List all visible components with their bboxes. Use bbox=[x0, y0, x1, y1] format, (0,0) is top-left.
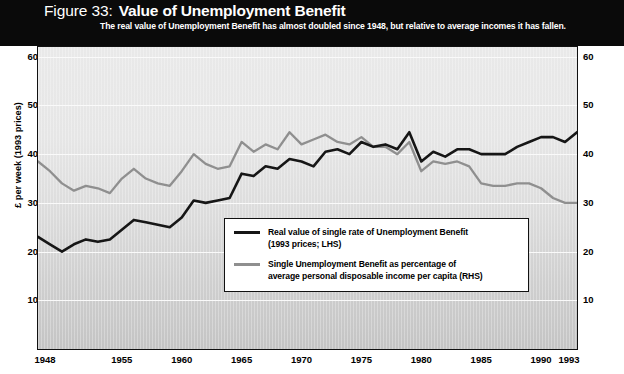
series-line-percentage bbox=[38, 132, 577, 203]
x-tick-1985: 1985 bbox=[471, 355, 492, 365]
y-tick-right-30: 30 bbox=[583, 198, 594, 208]
legend-label-real-value-line2: (1993 prices; LHS) bbox=[268, 239, 341, 249]
x-tick-1990: 1990 bbox=[530, 355, 551, 365]
y-tick-right-60: 60 bbox=[583, 52, 594, 62]
x-tick-1960: 1960 bbox=[171, 355, 192, 365]
y-tick-right-10: 10 bbox=[583, 295, 594, 305]
x-tick-1955: 1955 bbox=[111, 355, 132, 365]
legend-swatch-light bbox=[234, 263, 260, 266]
x-tick-1975: 1975 bbox=[351, 355, 372, 365]
x-tick-1948: 1948 bbox=[34, 355, 55, 365]
legend-swatch-dark bbox=[234, 231, 260, 234]
figure-subtitle: The real value of Unemployment Benefit h… bbox=[100, 21, 570, 32]
figure-container: Figure 33: Value of Unemployment Benefit… bbox=[0, 0, 624, 374]
legend-item-percentage: Single Unemployment Benefit as percentag… bbox=[234, 259, 519, 282]
y-tick-right-50: 50 bbox=[583, 100, 594, 110]
banner-right-fill bbox=[578, 0, 624, 46]
legend-label-percentage-line2: average personal disposable income per c… bbox=[268, 271, 483, 281]
legend-label-percentage: Single Unemployment Benefit as percentag… bbox=[268, 259, 483, 282]
legend: Real value of single rate of Unemploymen… bbox=[224, 218, 529, 292]
legend-item-real-value: Real value of single rate of Unemploymen… bbox=[234, 227, 519, 250]
y-tick-right-40: 40 bbox=[583, 149, 594, 159]
figure-title: Value of Unemployment Benefit bbox=[119, 2, 346, 20]
figure-number: Figure 33: bbox=[44, 2, 113, 20]
legend-label-real-value: Real value of single rate of Unemploymen… bbox=[268, 227, 468, 250]
title-row: Figure 33: Value of Unemployment Benefit bbox=[44, 2, 346, 20]
x-tick-1993: 1993 bbox=[558, 355, 579, 365]
x-tick-1980: 1980 bbox=[411, 355, 432, 365]
legend-label-percentage-line1: Single Unemployment Benefit as percentag… bbox=[268, 259, 456, 269]
legend-label-real-value-line1: Real value of single rate of Unemploymen… bbox=[268, 227, 468, 237]
left-axis-title: £ per week (1993 prices) bbox=[13, 75, 23, 235]
banner-left-fill bbox=[0, 0, 37, 46]
y-tick-right-20: 20 bbox=[583, 247, 594, 257]
figure-header-banner: Figure 33: Value of Unemployment Benefit… bbox=[37, 0, 578, 46]
series-lines bbox=[38, 47, 577, 349]
plot-area bbox=[37, 46, 578, 350]
x-tick-1970: 1970 bbox=[291, 355, 312, 365]
x-tick-1965: 1965 bbox=[231, 355, 252, 365]
